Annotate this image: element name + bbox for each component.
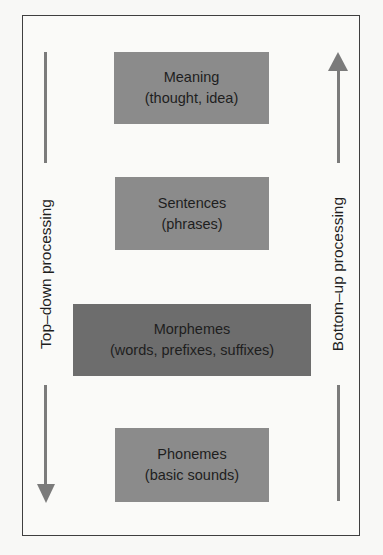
level-subtitle: (thought, idea) bbox=[145, 88, 239, 109]
bottom-up-processing-label: Bottom–up processing bbox=[327, 167, 349, 381]
level-subtitle: (words, prefixes, suffixes) bbox=[110, 340, 274, 361]
level-title: Meaning bbox=[164, 67, 220, 88]
level-box-sentences: Sentences (phrases) bbox=[115, 177, 269, 250]
level-box-phonemes: Phonemes (basic sounds) bbox=[115, 428, 269, 502]
bottom-up-arrow-line-lower bbox=[337, 385, 340, 501]
arrow-down-icon bbox=[37, 484, 55, 503]
top-down-arrow-line-lower bbox=[44, 385, 47, 485]
level-title: Phonemes bbox=[157, 444, 226, 465]
top-down-arrow-line-upper bbox=[44, 52, 47, 163]
level-title: Morphemes bbox=[154, 319, 231, 340]
bottom-up-arrow-line-upper bbox=[337, 70, 340, 163]
level-title: Sentences bbox=[158, 193, 227, 214]
level-subtitle: (phrases) bbox=[161, 214, 222, 235]
level-subtitle: (basic sounds) bbox=[145, 465, 239, 486]
level-box-morphemes: Morphemes (words, prefixes, suffixes) bbox=[73, 304, 311, 376]
level-box-meaning: Meaning (thought, idea) bbox=[114, 52, 269, 124]
top-down-processing-label: Top–down processing bbox=[35, 167, 57, 381]
arrow-up-icon bbox=[328, 52, 348, 71]
